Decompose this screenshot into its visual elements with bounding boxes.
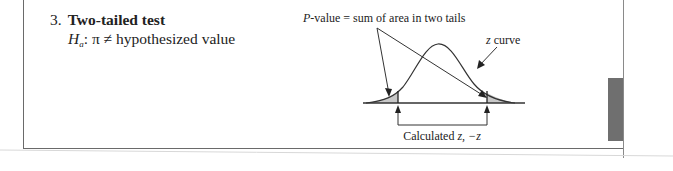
calc-vars: z, −z <box>457 129 480 143</box>
bracket-arrow-right-head <box>484 105 490 113</box>
pvalue-arrow-left-head <box>385 88 392 97</box>
z-curve-rest: curve <box>491 33 521 47</box>
bracket-arrow-left-head <box>395 105 401 113</box>
z-curve-annotation: z curve <box>486 33 520 47</box>
pvalue-rest: -value = sum of area in two tails <box>310 11 465 25</box>
calc-prefix: Calculated <box>403 129 457 143</box>
pvalue-arrow-left-line <box>377 28 389 94</box>
left-tail-shaded-area <box>366 93 398 103</box>
scan-artifact-line <box>0 150 673 156</box>
right-tail-shaded-area <box>487 93 515 103</box>
two-tailed-z-curve-diagram <box>0 0 673 171</box>
calculated-z-annotation: Calculated z, −z <box>400 129 484 143</box>
pvalue-annotation: P-value = sum of area in two tails <box>303 11 465 25</box>
pvalue-arrow-right-line <box>377 28 484 96</box>
calculated-z-bracket <box>398 108 487 125</box>
